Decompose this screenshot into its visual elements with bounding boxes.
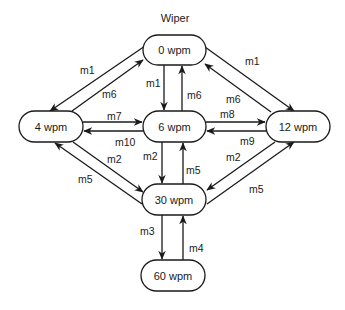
- edge-label-4-to-6: m7: [107, 110, 122, 122]
- edge-label-12-to-30: m2: [226, 151, 241, 163]
- edge-label-4-to-0: m6: [102, 88, 117, 100]
- node-4-wpm: 4 wpm: [19, 111, 83, 142]
- edge-label-60-to-30: m4: [189, 242, 204, 254]
- edge-label-6-to-4: m10: [115, 136, 136, 148]
- edge-30-to-4: [55, 143, 142, 204]
- node-label: 0 wpm: [158, 44, 190, 56]
- node-0-wpm: 0 wpm: [143, 35, 206, 65]
- node-label: 6 wpm: [158, 121, 190, 133]
- node-60-wpm: 60 wpm: [141, 260, 205, 291]
- wiper-state-diagram: Wiper m1 m6 m1 m6 m1 m6 m7 m10 m8 m9: [0, 0, 345, 310]
- edge-label-6-to-12: m8: [220, 108, 235, 120]
- edge-label-12-to-6: m9: [240, 135, 255, 147]
- node-12-wpm: 12 wpm: [266, 111, 330, 142]
- edge-label-6-to-30: m2: [143, 150, 158, 162]
- edge-label-30-to-60: m3: [140, 225, 155, 237]
- edge-label-0-to-4: m1: [80, 64, 95, 76]
- edge-label-30-to-6: m5: [186, 164, 201, 176]
- edge-label-30-to-4: m5: [78, 173, 93, 185]
- node-label: 60 wpm: [154, 270, 193, 282]
- edge-label-0-to-6: m1: [146, 77, 161, 89]
- edge-12-to-30: [207, 142, 275, 190]
- node-30-wpm: 30 wpm: [142, 184, 206, 215]
- edge-label-12-to-0: m6: [226, 93, 241, 105]
- edge-label-4-to-30: m2: [107, 153, 122, 165]
- edge-label-0-to-12: m1: [245, 55, 260, 67]
- edges: m1 m6 m1 m6 m1 m6 m7 m10 m8 m9 m2 m5: [50, 46, 294, 260]
- edge-label-30-to-12: m5: [249, 183, 264, 195]
- diagram-title: Wiper: [161, 12, 190, 24]
- edge-0-to-4: [50, 46, 145, 111]
- node-label: 4 wpm: [35, 121, 67, 133]
- edge-label-6-to-0: m6: [187, 89, 202, 101]
- node-6-wpm: 6 wpm: [143, 111, 206, 142]
- node-label: 12 wpm: [279, 121, 318, 133]
- node-label: 30 wpm: [155, 194, 194, 206]
